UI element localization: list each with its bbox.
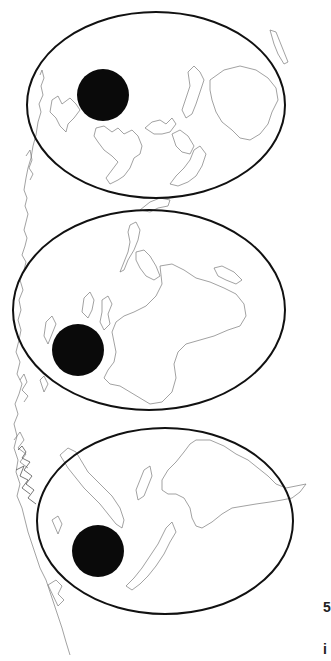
panel-2-frame-ellipse bbox=[13, 210, 285, 410]
edge-text-fragment-1: 5 bbox=[323, 600, 331, 614]
panel-3-frame-ellipse bbox=[37, 428, 293, 614]
panel-1 bbox=[27, 12, 285, 198]
panel-2 bbox=[13, 210, 285, 410]
panel-1-frame-ellipse bbox=[27, 12, 285, 198]
edge-text-fragment-2: i bbox=[323, 642, 327, 656]
panel-2-landmasses bbox=[40, 222, 246, 404]
panel-3 bbox=[37, 428, 293, 614]
panel-1-location-marker bbox=[77, 69, 129, 121]
panel-1-landmasses bbox=[50, 30, 288, 212]
panel-3-location-marker bbox=[72, 525, 124, 577]
panel-2-location-marker bbox=[52, 324, 104, 376]
